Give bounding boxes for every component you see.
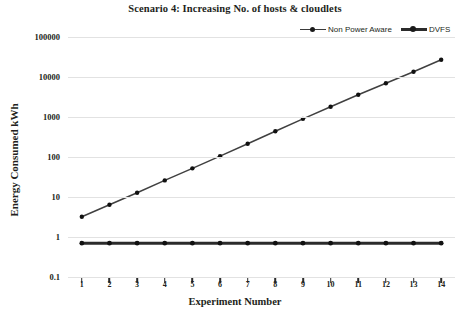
data-point[interactable]	[79, 241, 84, 246]
x-tick-label: 6	[218, 280, 222, 289]
data-point[interactable]	[80, 215, 84, 219]
data-point[interactable]	[301, 241, 306, 246]
y-tick-label: 10000	[39, 72, 60, 82]
plot-area: 1000001000010001001010.11234567891011121…	[68, 37, 455, 277]
y-gridline	[68, 157, 455, 158]
data-point[interactable]	[328, 241, 333, 246]
y-gridline	[68, 117, 455, 118]
data-point[interactable]	[135, 241, 140, 246]
y-gridline	[68, 77, 455, 78]
legend-marker-icon	[300, 26, 326, 34]
x-tick-label: 1	[80, 280, 84, 289]
x-tick-label: 7	[246, 280, 250, 289]
data-point[interactable]	[411, 70, 415, 74]
data-point[interactable]	[107, 241, 112, 246]
legend-item-dvfs[interactable]: DVFS	[401, 25, 450, 34]
data-point[interactable]	[356, 93, 360, 97]
chart-legend: Non Power Aware DVFS	[300, 25, 450, 34]
data-point[interactable]	[439, 241, 444, 246]
chart-title: Scenario 4: Increasing No. of hosts & cl…	[0, 3, 470, 14]
y-tick-label: 100000	[35, 32, 61, 42]
y-tick-label: 0.1	[49, 272, 60, 282]
legend-label: Non Power Aware	[328, 25, 392, 34]
y-gridline	[68, 277, 455, 278]
x-tick-label: 13	[410, 280, 418, 289]
x-tick-label: 10	[327, 280, 335, 289]
chart-container: Scenario 4: Increasing No. of hosts & cl…	[0, 0, 470, 319]
data-point[interactable]	[273, 129, 277, 133]
data-point[interactable]	[190, 241, 195, 246]
data-point[interactable]	[383, 241, 388, 246]
data-point[interactable]	[107, 203, 111, 207]
legend-item-non-power-aware[interactable]: Non Power Aware	[300, 25, 392, 34]
x-tick-label: 8	[273, 280, 277, 289]
x-tick-label: 5	[190, 280, 194, 289]
x-tick-label: 11	[354, 280, 362, 289]
data-point[interactable]	[218, 241, 223, 246]
x-tick-label: 2	[107, 280, 111, 289]
y-tick-label: 1000	[43, 112, 60, 122]
y-tick-label: 100	[47, 152, 60, 162]
y-gridline	[68, 197, 455, 198]
data-point[interactable]	[190, 166, 194, 170]
data-point[interactable]	[245, 241, 250, 246]
x-tick-label: 3	[135, 280, 139, 289]
x-tick-label: 12	[382, 280, 390, 289]
y-tick-label: 10	[52, 192, 61, 202]
y-axis-label: Energy Consumed kWh	[8, 103, 20, 216]
x-tick-label: 9	[301, 280, 305, 289]
data-point[interactable]	[273, 241, 278, 246]
data-point[interactable]	[356, 241, 361, 246]
data-point[interactable]	[411, 241, 416, 246]
data-point[interactable]	[162, 241, 167, 246]
data-point[interactable]	[328, 105, 332, 109]
x-tick-label: 4	[163, 280, 167, 289]
data-point[interactable]	[135, 191, 139, 195]
legend-marker-icon	[401, 26, 427, 34]
x-tick-label: 14	[437, 280, 445, 289]
y-gridline	[68, 237, 455, 238]
data-point[interactable]	[439, 58, 443, 62]
y-gridline	[68, 37, 455, 38]
data-point[interactable]	[163, 178, 167, 182]
y-tick-label: 1	[56, 232, 60, 242]
legend-label: DVFS	[429, 25, 450, 34]
data-point[interactable]	[245, 142, 249, 146]
x-axis-label: Experiment Number	[0, 296, 470, 307]
data-point[interactable]	[384, 81, 388, 85]
